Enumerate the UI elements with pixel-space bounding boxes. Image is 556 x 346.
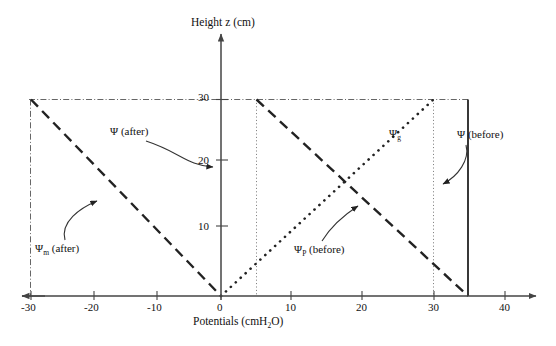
series-psi-p-before (257, 100, 469, 297)
annotation-psi-m-after-text: (after) (49, 242, 79, 254)
x-tick-label--10: -10 (147, 302, 162, 313)
x-tick-label--20: -20 (84, 302, 99, 313)
y-tick-marks (216, 100, 228, 227)
data-series (31, 100, 468, 297)
y-tick-label-10: 10 (198, 221, 209, 232)
x-tick-label--30: -30 (21, 302, 36, 313)
leader-psi-m-after (64, 201, 97, 240)
x-tick-label-40: 40 (499, 302, 510, 313)
x-tick-label-30: 30 (428, 302, 439, 313)
leader-psi-p-before (322, 206, 358, 241)
axes (22, 34, 536, 300)
annotation-psi-g-symbol: Ψ (389, 127, 397, 139)
annotation-psi-p-before-text: (before) (306, 243, 344, 255)
x-tick-label-10: 10 (285, 302, 296, 313)
y-tick-label-30: 30 (198, 92, 209, 103)
x-tick-label-20: 20 (356, 302, 367, 313)
annotation-psi-after-symbol: Ψ (110, 125, 118, 137)
annotation-psi-m-after-symbol: Ψ (35, 242, 43, 254)
leader-psi-before (443, 145, 467, 184)
annotation-psi-p-before-symbol: Ψ (294, 243, 302, 255)
annotation-psi-after-text: (after) (118, 125, 148, 137)
x-axis-title-post: O) (271, 315, 283, 327)
annotation-psi-after: Ψ (after) (110, 126, 148, 140)
annotation-psi-m-after: Ψm (after) (35, 243, 79, 257)
annotation-psi-p-before: ΨP (before) (294, 244, 344, 258)
annotation-psi-before: Ψ (before) (457, 129, 503, 143)
series-psi-g (221, 100, 434, 297)
annotation-psi-before-text: (before) (465, 128, 503, 140)
chart-canvas (0, 0, 556, 346)
annotation-psi-g-subscript: g (397, 133, 401, 142)
annotation-psi-g: Ψg (389, 128, 401, 142)
annotation-leaders (64, 141, 467, 241)
x-axis-title-pre: Potentials (cmH (193, 315, 267, 327)
x-axis-title: Potentials (cmH2O) (193, 316, 283, 330)
x-tick-label-0: 0 (217, 302, 223, 313)
chart-figure: Height z (cm) Potentials (cmH2O) -30 -20… (0, 0, 556, 346)
y-tick-label-20: 20 (198, 155, 209, 166)
annotation-psi-before-symbol: Ψ (457, 128, 465, 140)
y-axis-title: Height z (cm) (191, 17, 255, 29)
reference-lines (29, 100, 468, 297)
